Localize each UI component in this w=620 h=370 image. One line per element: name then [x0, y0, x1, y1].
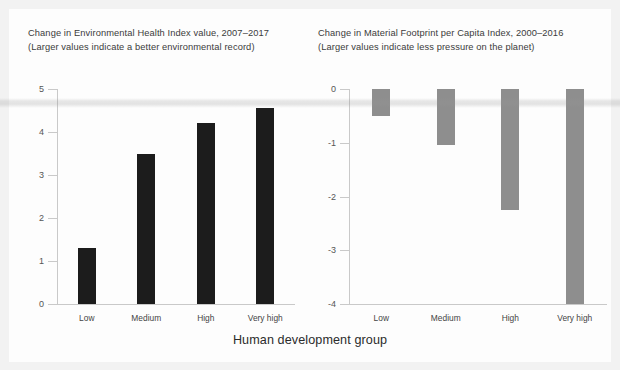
- y-tick-right-4: [340, 304, 349, 305]
- y-tick-left-3: [48, 175, 57, 176]
- y-tick-label-left-5: 5: [39, 84, 44, 94]
- y-tick-left-0: [48, 304, 57, 305]
- x-category-label-left-0: Low: [79, 313, 94, 323]
- x-category-label-right-2: High: [502, 313, 519, 323]
- x-category-label-left-2: High: [197, 313, 214, 323]
- x-axis-line-left: [57, 304, 295, 305]
- bar-left-very-high: [256, 108, 274, 304]
- y-tick-right-1: [340, 143, 349, 144]
- bar-right-low: [372, 89, 390, 116]
- chart-title-right-line2: (Larger values indicate less pressure on…: [318, 40, 603, 54]
- y-tick-right-0: [340, 89, 349, 90]
- bar-left-high: [197, 123, 215, 304]
- chart-title-left: Change in Environmental Health Index val…: [28, 26, 303, 54]
- y-tick-left-1: [48, 261, 57, 262]
- y-tick-left-2: [48, 218, 57, 219]
- y-tick-label-right-3: -3: [328, 245, 336, 255]
- y-tick-label-left-4: 4: [39, 127, 44, 137]
- x-axis-line-right: [349, 304, 607, 305]
- y-tick-label-left-1: 1: [39, 256, 44, 266]
- bar-right-medium: [437, 89, 455, 145]
- x-category-label-right-1: Medium: [431, 313, 461, 323]
- y-axis-line-right: [349, 89, 350, 304]
- y-tick-left-4: [48, 132, 57, 133]
- chart-title-left-line2: (Larger values indicate a better environ…: [28, 40, 303, 54]
- y-tick-label-left-3: 3: [39, 170, 44, 180]
- y-axis-line-left: [57, 89, 58, 304]
- y-tick-label-right-4: -4: [328, 299, 336, 309]
- chart-panel-left: Change in Environmental Health Index val…: [0, 0, 310, 370]
- y-tick-label-right-1: -1: [328, 138, 336, 148]
- x-axis-title: Human development group: [0, 333, 620, 347]
- y-tick-left-5: [48, 89, 57, 90]
- chart-title-right-line1: Change in Material Footprint per Capita …: [318, 26, 603, 40]
- y-tick-label-left-0: 0: [39, 299, 44, 309]
- bar-right-high: [501, 89, 519, 210]
- plot-area-left: 012345LowMediumHighVery high: [57, 89, 295, 304]
- y-tick-label-left-2: 2: [39, 213, 44, 223]
- y-tick-right-3: [340, 250, 349, 251]
- chart-title-right: Change in Material Footprint per Capita …: [318, 26, 603, 54]
- bar-right-very-high: [566, 89, 584, 304]
- chart-title-left-line1: Change in Environmental Health Index val…: [28, 26, 303, 40]
- x-category-label-right-3: Very high: [557, 313, 592, 323]
- figure-container: Change in Environmental Health Index val…: [0, 0, 620, 370]
- y-tick-label-right-2: -2: [328, 192, 336, 202]
- y-tick-label-right-0: 0: [331, 84, 336, 94]
- chart-panel-right: Change in Material Footprint per Capita …: [310, 0, 620, 370]
- bar-left-low: [78, 248, 96, 304]
- x-category-label-right-0: Low: [374, 313, 389, 323]
- y-tick-right-2: [340, 197, 349, 198]
- x-category-label-left-1: Medium: [131, 313, 161, 323]
- plot-area-right: 0-1-2-3-4LowMediumHighVery high: [349, 89, 607, 304]
- x-category-label-left-3: Very high: [248, 313, 283, 323]
- bar-left-medium: [137, 154, 155, 305]
